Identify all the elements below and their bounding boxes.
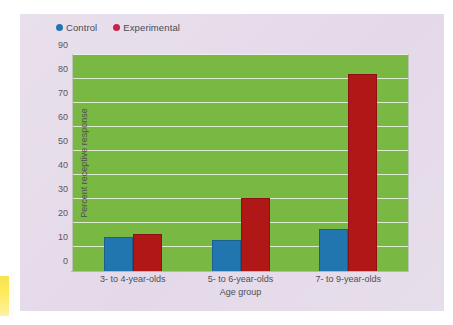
bar-group	[79, 55, 187, 271]
bar-experimental	[348, 74, 377, 271]
bar-control	[212, 240, 241, 271]
figure-panel: Control Experimental 0102030405060708090…	[20, 14, 444, 311]
x-axis-tick-labels: 3- to 4-year-olds5- to 6-year-olds7- to …	[73, 274, 408, 284]
bar-control	[319, 229, 348, 271]
y-tick-label-60: 60	[58, 112, 68, 122]
legend-item-control: Control	[56, 22, 97, 33]
bar-control	[104, 237, 133, 271]
bar-experimental	[133, 234, 162, 271]
bar-group	[294, 55, 402, 271]
x-axis-title: Age group	[73, 287, 408, 297]
bar-groups	[73, 55, 408, 271]
x-tick-label: 5- to 6-year-olds	[187, 274, 295, 284]
x-axis-line	[71, 271, 408, 272]
y-tick-label-30: 30	[58, 184, 68, 194]
plot-area-wrapper: 0102030405060708090 Percent receptive re…	[73, 55, 408, 271]
y-axis-title: Percent receptive response	[79, 108, 89, 218]
legend-swatch-control	[56, 24, 63, 31]
y-tick-label-80: 80	[58, 64, 68, 74]
x-tick-label: 3- to 4-year-olds	[79, 274, 187, 284]
scan-artifact-yellow	[0, 276, 9, 316]
legend-swatch-experimental	[113, 24, 120, 31]
y-tick-label-40: 40	[58, 160, 68, 170]
legend-label-control: Control	[66, 22, 97, 33]
legend-item-experimental: Experimental	[113, 22, 180, 33]
y-tick-label-10: 10	[58, 232, 68, 242]
y-tick-label-70: 70	[58, 88, 68, 98]
bar-group	[187, 55, 295, 271]
y-tick-label-0: 0	[63, 256, 68, 266]
y-tick-label-90: 90	[58, 40, 68, 50]
chart-page: Control Experimental 0102030405060708090…	[0, 0, 453, 325]
legend-label-experimental: Experimental	[123, 22, 180, 33]
y-tick-label-50: 50	[58, 136, 68, 146]
chart-legend: Control Experimental	[56, 22, 180, 33]
scan-artifact-white	[9, 272, 14, 318]
y-tick-label-20: 20	[58, 208, 68, 218]
bar-experimental	[241, 198, 270, 271]
x-tick-label: 7- to 9-year-olds	[294, 274, 402, 284]
